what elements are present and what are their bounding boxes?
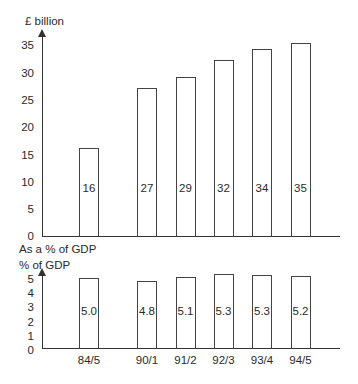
top-y-tick: 25 [12, 94, 34, 106]
bottom-bar-84-5: 5.0 [79, 278, 99, 348]
top-y-axis-unit-label: £ billion [25, 15, 64, 27]
bottom-section-title: As a % of GDP [19, 243, 96, 255]
x-category-label: 92/3 [204, 354, 244, 366]
top-y-tick: 15 [12, 149, 34, 161]
top-bar-84-5: 16 [79, 148, 99, 236]
bar-value-label: 32 [215, 182, 233, 194]
top-bar-92-3: 32 [214, 60, 234, 236]
bar-value-label: 5.3 [215, 305, 233, 317]
bar-value-label: 29 [177, 182, 195, 194]
top-y-tick: 10 [12, 176, 34, 188]
bar-value-label: 5.0 [80, 305, 98, 317]
bottom-x-axis [42, 348, 340, 349]
bar-value-label: 5.2 [292, 305, 310, 317]
top-bar-94-5: 35 [291, 43, 311, 236]
bottom-bar-92-3: 5.3 [214, 274, 234, 348]
bar-value-label: 16 [80, 182, 98, 194]
top-y-tick: 20 [12, 121, 34, 133]
bottom-y-axis [42, 272, 43, 349]
bottom-y-tick: 2 [12, 316, 34, 328]
top-y-tick: 35 [12, 39, 34, 51]
top-bar-90-1: 27 [137, 88, 157, 236]
x-category-label: 94/5 [281, 354, 321, 366]
x-category-label: 84/5 [69, 354, 109, 366]
bar-value-label: 5.3 [253, 305, 271, 317]
top-y-tick: 5 [12, 203, 34, 215]
bottom-y-tick: 3 [12, 301, 34, 313]
bottom-y-tick: 1 [12, 330, 34, 342]
bar-value-label: 27 [138, 182, 156, 194]
bar-value-label: 34 [253, 182, 271, 194]
bar-value-label: 35 [292, 182, 310, 194]
bottom-bar-91-2: 5.1 [176, 277, 196, 349]
bar-value-label: 4.8 [138, 305, 156, 317]
bottom-bar-94-5: 5.2 [291, 276, 311, 348]
bar-value-label: 5.1 [177, 305, 195, 317]
top-y-tick: 0 [12, 230, 34, 242]
x-category-label: 90/1 [127, 354, 167, 366]
top-x-axis-line [42, 236, 340, 237]
bottom-bar-93-4: 5.3 [252, 275, 272, 349]
top-bar-93-4: 34 [252, 49, 272, 236]
bottom-y-tick: 5 [12, 273, 34, 285]
bottom-bar-90-1: 4.8 [137, 281, 157, 348]
bottom-y-tick: 0 [12, 344, 34, 356]
top-y-axis [42, 33, 43, 237]
bottom-y-tick: 4 [12, 287, 34, 299]
x-category-label: 93/4 [242, 354, 282, 366]
x-category-label: 91/2 [166, 354, 206, 366]
top-bar-91-2: 29 [176, 77, 196, 236]
top-y-tick: 30 [12, 67, 34, 79]
